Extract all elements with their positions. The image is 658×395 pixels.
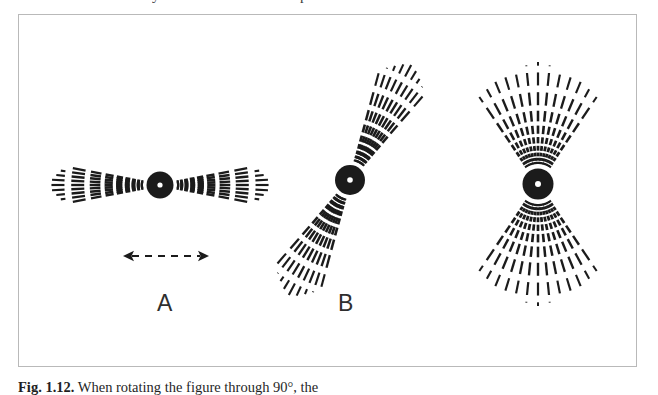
panel-label-a: A xyxy=(157,292,172,315)
clipped-glyph-left: y xyxy=(152,0,160,3)
figure-border xyxy=(18,14,637,367)
figure-caption: Fig. 1.12. When rotating the figure thro… xyxy=(18,379,638,395)
clipped-glyph-right: p xyxy=(300,0,308,3)
caption-label: Fig. 1.12. xyxy=(18,379,74,395)
panel-label-b: B xyxy=(338,292,353,315)
clipped-text-above: y p xyxy=(0,0,658,3)
caption-text: When rotating the figure through 90°, th… xyxy=(74,379,318,395)
